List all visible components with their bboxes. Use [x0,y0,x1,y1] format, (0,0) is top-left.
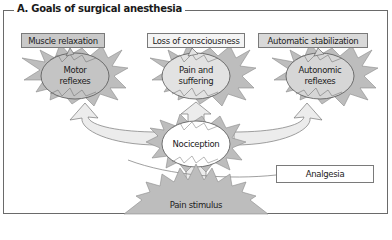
analgesia-box: Analgesia [276,165,374,183]
motor-line-1: Motor [50,65,100,76]
pain-stimulus-label: Pain stimulus [160,200,232,211]
pain-line-1: Pain and [166,65,226,76]
arrow-right [234,103,322,145]
auto-line-1: Autonomic [290,65,350,76]
arrow-left [70,103,158,145]
ellipse-label-pain-and-suffering: Pain and suffering [166,65,226,87]
goal-box-automatic-stabilization: Automatic stabilization [258,33,368,48]
motor-line-2: reflexes [50,76,100,87]
auto-line-2: reflexes [290,76,350,87]
goal-box-loss-of-consciousness: Loss of consciousness [147,33,245,48]
ellipse-label-motor-reflexes: Motor reflexes [50,65,100,87]
pain-line-2: suffering [166,76,226,87]
ellipse-label-autonomic-reflexes: Autonomic reflexes [290,65,350,87]
nociception-label: Nociception [166,139,226,150]
goal-box-muscle-relaxation: Muscle relaxation [21,33,105,48]
